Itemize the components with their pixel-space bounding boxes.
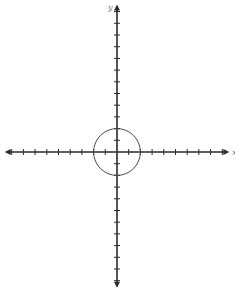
coordinate-plane-diagram: x y — [0, 0, 235, 296]
x-axis-left-arrow-icon — [5, 149, 11, 155]
x-axis-right-arrow-icon — [223, 149, 229, 155]
coordinate-plane-svg: x y — [0, 0, 235, 296]
x-axis-label: x — [232, 148, 235, 157]
y-axis-label: y — [107, 3, 113, 12]
y-axis-up-arrow-icon — [114, 5, 120, 11]
y-axis-down-arrow-icon — [114, 282, 120, 288]
